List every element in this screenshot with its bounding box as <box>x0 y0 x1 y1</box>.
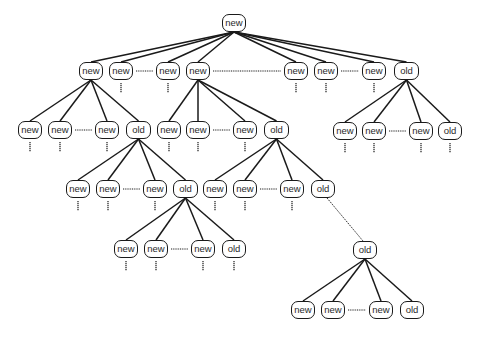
tree-node-new: new <box>314 62 338 80</box>
tree-node-old: old <box>126 121 151 139</box>
tree-node-new: new <box>156 62 180 80</box>
tree-node-old: old <box>394 62 419 80</box>
tree-edge <box>108 139 139 180</box>
tree-edge <box>60 80 91 121</box>
tree-node-new: new <box>157 121 181 139</box>
tree-node-new: new <box>409 122 433 140</box>
tree-node-old: old <box>400 301 424 319</box>
tree-node-new: new <box>233 121 257 139</box>
tree-node-new: new <box>284 62 308 80</box>
tree-node-new: new <box>186 121 210 139</box>
tree-node-old: old <box>173 180 198 198</box>
tree-edge <box>186 198 235 240</box>
tree-node-new: new <box>96 180 120 198</box>
tree-node-new: new <box>222 14 246 32</box>
tree-edge <box>186 198 204 240</box>
tree-edge <box>169 80 198 121</box>
tree-node-new: new <box>369 301 393 319</box>
tree-node-new: new <box>66 180 90 198</box>
tree-node-new: new <box>203 180 227 198</box>
tree-node-new: new <box>186 62 210 80</box>
tree-node-new: new <box>333 122 357 140</box>
tree-edge <box>234 32 407 62</box>
tree-edge <box>156 198 186 240</box>
tree-node-new: new <box>109 62 133 80</box>
tree-edge <box>30 80 91 121</box>
tree-edge <box>126 198 186 240</box>
tree-edge <box>78 139 139 180</box>
tree-edge <box>374 80 407 122</box>
tree-node-new: new <box>79 62 103 80</box>
tree-node-old: old <box>311 180 335 198</box>
tree-node-old: old <box>353 241 377 259</box>
tree-edge <box>303 259 365 301</box>
tree-node-old: old <box>438 122 462 140</box>
tree-node-new: new <box>321 301 345 319</box>
tree-edge <box>365 259 412 301</box>
tree-node-new: new <box>191 240 215 258</box>
search-tree-diagram: newnewnewnewnewnewnewnewoldnewnewnewoldn… <box>0 0 478 339</box>
elided-path-edge <box>327 198 363 241</box>
tree-node-new: new <box>291 301 315 319</box>
tree-node-new: new <box>95 121 119 139</box>
tree-node-new: new <box>362 122 386 140</box>
tree-edge <box>234 32 296 62</box>
tree-edge <box>345 80 407 122</box>
tree-node-new: new <box>114 240 138 258</box>
tree-node-new: new <box>48 121 72 139</box>
tree-edge <box>91 32 234 62</box>
tree-node-new: new <box>362 62 386 80</box>
tree-edge <box>139 139 156 180</box>
tree-edge <box>139 139 186 180</box>
tree-edge <box>234 32 326 62</box>
tree-edge <box>245 139 277 180</box>
tree-edge <box>91 80 139 121</box>
tree-edge <box>215 139 277 180</box>
tree-edge <box>234 32 374 62</box>
tree-node-new: new <box>233 180 257 198</box>
tree-edge <box>333 259 365 301</box>
tree-node-new: new <box>18 121 42 139</box>
tree-edges <box>0 0 478 339</box>
tree-node-old: old <box>222 240 246 258</box>
tree-node-new: new <box>144 240 168 258</box>
tree-node-new: new <box>143 180 167 198</box>
tree-node-new: new <box>280 180 304 198</box>
tree-node-old: old <box>264 121 289 139</box>
